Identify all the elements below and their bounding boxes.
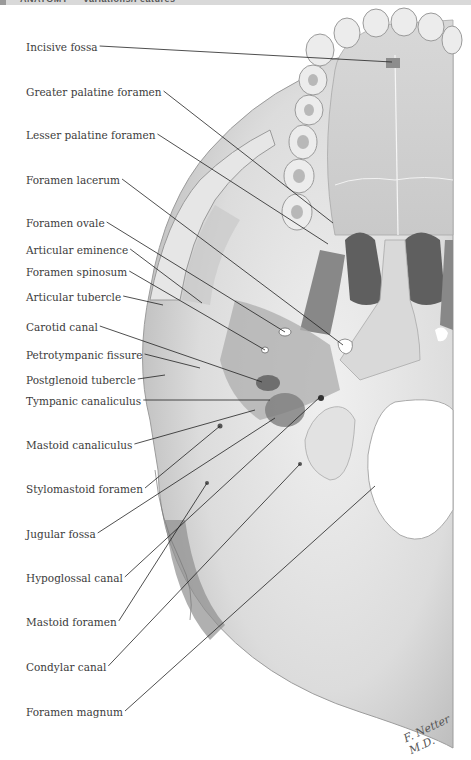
label-foramen-magnum: Foramen magnum	[26, 706, 123, 718]
label-mastoid-canaliculus: Mastoid canaliculus	[26, 439, 132, 451]
label-greater-palatine-foramen: Greater palatine foramen	[26, 86, 162, 98]
label-stylomastoid-foramen: Stylomastoid foramen	[26, 483, 143, 495]
label-carotid-canal: Carotid canal	[26, 321, 98, 333]
label-hypoglossal-canal: Hypoglossal canal	[26, 572, 123, 584]
label-foramen-ovale: Foramen ovale	[26, 217, 105, 229]
hard-palate	[328, 20, 454, 235]
jugular-fossa	[265, 393, 305, 427]
label-mastoid-foramen: Mastoid foramen	[26, 616, 117, 628]
label-incisive-fossa: Incisive fossa	[26, 41, 98, 53]
label-articular-tubercle: Articular tubercle	[26, 291, 121, 303]
label-petrotympanic-fissure: Petrotympanic fissure	[26, 349, 143, 361]
carotid-canal	[256, 375, 280, 391]
label-jugular-fossa: Jugular fossa	[26, 528, 96, 540]
label-foramen-spinosum: Foramen spinosum	[26, 266, 127, 278]
label-foramen-lacerum: Foramen lacerum	[26, 174, 120, 186]
label-lesser-palatine-foramen: Lesser palatine foramen	[26, 129, 155, 141]
incisive-fossa	[386, 58, 400, 68]
label-condylar-canal: Condylar canal	[26, 661, 106, 673]
label-tympanic-canaliculus: Tympanic canaliculus	[26, 395, 141, 407]
label-articular-eminence: Articular eminence	[26, 244, 128, 256]
label-postglenoid-tubercle: Postglenoid tubercle	[26, 374, 136, 386]
